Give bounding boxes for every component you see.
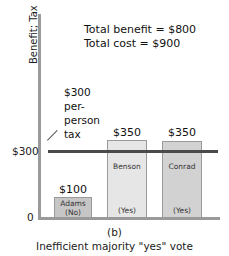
chart-caption: Inefficient majority "yes" vote xyxy=(0,240,229,252)
bar-adams: Adams (No) xyxy=(54,197,92,218)
total-benefit-label: Total benefit = $800 xyxy=(84,23,196,37)
tax-annotation-line1: $300 xyxy=(64,86,91,99)
bar-vote-adams: (No) xyxy=(55,208,91,217)
tax-leader-line xyxy=(47,130,58,141)
y-tick-300: $300 xyxy=(12,145,39,157)
bar-value-benson: $350 xyxy=(105,126,149,139)
y-tick-0: 0 xyxy=(27,211,34,223)
bar-name-adams: Adams xyxy=(55,199,91,208)
bar-value-adams: $100 xyxy=(52,183,94,196)
bar-name-conrad: Conrad xyxy=(163,162,201,171)
y-axis xyxy=(38,14,41,219)
panel-label: (b) xyxy=(0,226,229,238)
tax-reference-line xyxy=(48,150,218,153)
bar-name-benson: Benson xyxy=(108,162,146,171)
total-cost-label: Total cost = $900 xyxy=(84,37,180,51)
tax-annotation-line4: tax xyxy=(64,128,81,141)
bar-vote-conrad: (Yes) xyxy=(163,206,201,215)
bar-value-conrad: $350 xyxy=(160,126,204,139)
tax-annotation-line2: per- xyxy=(64,100,85,113)
tax-annotation-line3: person xyxy=(64,114,100,127)
bar-vote-benson: (Yes) xyxy=(108,206,146,215)
